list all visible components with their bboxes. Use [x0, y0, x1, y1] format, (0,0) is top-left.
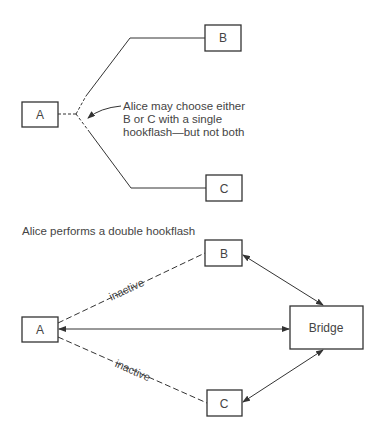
top-node-b-label: B — [219, 31, 227, 45]
edge-b-bridge — [243, 255, 323, 305]
bottom-diagram: Alice performs a double hookflash B A Br… — [22, 225, 363, 416]
top-edge-junction-b-dashed — [76, 96, 86, 114]
bottom-node-c-label: C — [220, 397, 229, 411]
diagram-canvas: A B C Alice may choose either B or C wit… — [0, 0, 386, 435]
top-edge-junction-c-dashed — [76, 114, 88, 130]
bottom-node-b-label: B — [220, 247, 228, 261]
top-edge-to-b — [86, 38, 205, 96]
bottom-diagram-title: Alice performs a double hookflash — [22, 225, 195, 237]
bridge-label: Bridge — [309, 321, 344, 335]
annotation-line-2: B or C with a single — [123, 113, 222, 125]
edge-a-c-label: inactive — [113, 357, 152, 383]
top-node-c-label: C — [220, 182, 229, 196]
edge-c-bridge — [243, 350, 323, 402]
top-diagram: A B C Alice may choose either B or C wit… — [22, 25, 248, 201]
annotation-line-3: hookflash—but not both — [123, 126, 244, 138]
bottom-node-a-label: A — [36, 323, 44, 337]
top-edge-to-c — [88, 130, 206, 188]
annotation-text: Alice may choose either B or C with a si… — [123, 100, 248, 138]
top-node-a-label: A — [36, 108, 44, 122]
annotation-line-1: Alice may choose either — [123, 100, 245, 112]
annotation-arrow — [88, 106, 121, 118]
edge-a-b-label: inactive — [107, 276, 146, 303]
